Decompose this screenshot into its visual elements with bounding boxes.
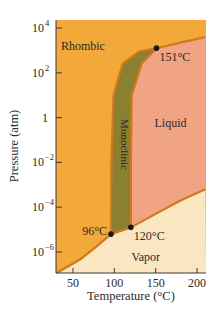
triple-point-label: 96°C [82,224,107,238]
y-tick-label: 1 [42,111,48,125]
triple-point-label: 151°C [159,50,190,64]
phase-diagram: 50100150200104102110−210−410−6 RhombicMo… [0,0,219,316]
triple-point [154,45,160,51]
y-tick-exponent: −4 [45,197,55,207]
y-axis-label: Pressure (atm) [7,110,21,183]
y-tick-label: 10 [32,21,44,35]
y-tick-exponent: 4 [45,18,50,28]
region-label-rhombic: Rhombic [61,39,105,53]
triple-point-label: 120°C [134,229,165,243]
y-tick-exponent: −6 [45,242,54,252]
x-axis-label: Temperature (°C) [87,289,175,303]
y-tick-label: 10 [32,155,44,169]
y-tick-label: 10 [32,245,44,259]
triple-point [108,231,114,237]
y-tick-exponent: −2 [45,152,54,162]
region-label-liquid: Liquid [155,116,187,130]
triple-point [128,225,134,231]
y-tick-label: 10 [32,200,44,214]
x-tick-label: 100 [105,276,123,290]
region-label-monoclinic: Monoclinic [119,119,131,170]
region-label-vapor: Vapor [131,250,160,264]
x-tick-label: 200 [188,276,206,290]
y-tick-exponent: 2 [45,63,49,73]
y-tick-label: 10 [32,66,44,80]
x-tick-label: 150 [147,276,165,290]
x-tick-label: 50 [67,276,79,290]
